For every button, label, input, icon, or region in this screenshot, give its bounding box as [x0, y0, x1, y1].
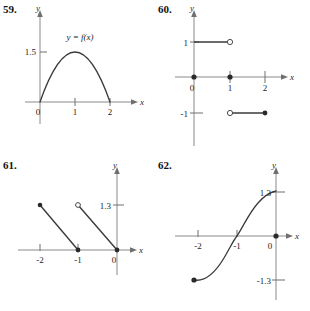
point-origin-62: [273, 233, 278, 238]
x-axis-label-59: x: [139, 97, 144, 107]
x-axis-label-60: x: [289, 72, 294, 82]
x-axis-arrow-59: [131, 99, 138, 105]
problem-panel-61: 61. y: [0, 155, 155, 310]
x-axis-arrow-62: [286, 233, 293, 239]
y-ticklabel-1-60: 1: [184, 38, 189, 48]
problem-panel-62: 62. y x 1.3: [155, 155, 310, 310]
y-axis-label-60: y: [189, 3, 194, 13]
x-ticklabel-0-62: 0: [268, 241, 273, 251]
figure-59: y x 1.5 0 1 2 y = f(x): [0, 0, 155, 155]
y-axis-label-61: y: [112, 160, 117, 170]
x-ticklabel-neg1-61: -1: [74, 255, 82, 265]
filled-endpoint-lower-60: [263, 111, 268, 116]
x-ticklabel-0-60: 0: [190, 83, 195, 93]
y-ticklabel-neg1p3-62: -1.3: [257, 276, 272, 286]
x-ticklabel-0-59: 0: [36, 107, 41, 117]
chart-62-svg: y x 1.3 -1.3 -2 -1 0: [155, 155, 310, 310]
x-axis-arrow-60: [281, 74, 288, 80]
figure-61: y x 1.3 -2 -1 0: [0, 155, 155, 310]
filled-endpoint-curve-start-62: [191, 277, 196, 282]
parabola-curve-59: [40, 52, 110, 102]
segment-right-61: [78, 205, 117, 250]
x-ticklabel-neg2-61: -2: [36, 255, 44, 265]
open-endpoint-upper-60: [227, 39, 232, 44]
function-label-59: y = f(x): [65, 32, 93, 42]
x-ticklabel-2-59: 2: [108, 107, 113, 117]
y-ticklabel-1p3-62: 1.3: [260, 188, 272, 198]
x-axis-arrow-61: [130, 247, 137, 253]
x-axis-label-61: x: [138, 245, 143, 255]
point-1-0-60: [227, 74, 232, 79]
x-ticklabel-1-60: 1: [228, 83, 233, 93]
problem-panel-60: 60.: [155, 0, 310, 155]
segment-left-61: [40, 205, 78, 250]
y-ticklabel-1p5-59: 1.5: [25, 47, 37, 57]
filled-endpoint-right-end-61: [115, 248, 120, 253]
y-ticklabel-1p3-61: 1.3: [100, 201, 112, 211]
open-endpoint-right-start-61: [76, 203, 81, 208]
filled-endpoint-left-end-61: [76, 248, 81, 253]
open-endpoint-lower-60: [227, 110, 232, 115]
x-ticklabel-2-60: 2: [263, 83, 268, 93]
problem-panel-59: 59. y x 1.5 0 1 2: [0, 0, 155, 155]
figure-60: y x 1 -1 0 1 2: [155, 0, 310, 155]
chart-60-svg: y x 1 -1 0 1 2: [155, 0, 310, 155]
figure-62: y x 1.3 -1.3 -2 -1 0: [155, 155, 310, 310]
y-axis-label-59: y: [35, 3, 40, 13]
x-ticklabel-0-61: 0: [112, 255, 117, 265]
y-ticklabel-neg1-60: -1: [181, 109, 189, 119]
x-ticklabel-1-59: 1: [73, 107, 78, 117]
x-ticklabel-neg1-62: -1: [233, 241, 241, 251]
point-origin-60: [191, 74, 196, 79]
x-axis-label-62: x: [294, 231, 299, 241]
filled-endpoint-left-start-61: [38, 203, 43, 208]
y-axis-label-62: y: [271, 160, 276, 170]
chart-59-svg: y x 1.5 0 1 2 y = f(x): [0, 0, 155, 155]
x-ticklabel-neg2-62: -2: [194, 241, 202, 251]
chart-61-svg: y x 1.3 -2 -1 0: [0, 155, 155, 310]
exercise-figure-page: 59. y x 1.5 0 1 2: [0, 0, 310, 311]
